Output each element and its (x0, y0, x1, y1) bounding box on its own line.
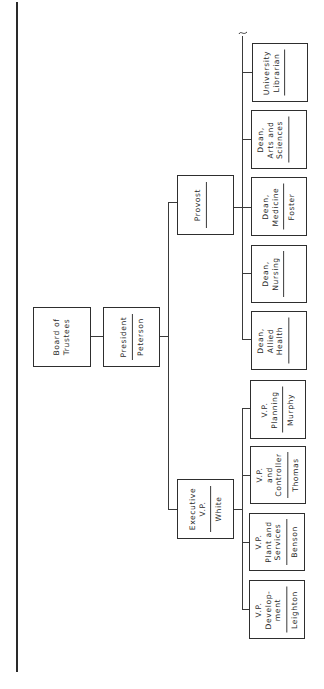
node-divider (210, 486, 211, 532)
continuation-break-icon (238, 29, 248, 37)
connector-librarian (242, 72, 252, 73)
page-margin-rule (16, 2, 18, 672)
node-divider (131, 314, 132, 360)
node-vp-development: V.P. Develop- ment Leighton (249, 580, 305, 639)
node-title: Dean, Allied Health (256, 326, 285, 355)
node-title: V.P. Develop- ment (254, 590, 283, 629)
connector-deans-spine (242, 36, 243, 339)
node-title: V.P. Planning (260, 391, 279, 429)
node-president: President Peterson (103, 307, 160, 367)
node-dean-medicine: Dean, Medicine Foster (251, 177, 307, 236)
node-vp-planning: V.P. Planning Murphy (250, 380, 306, 439)
node-title: University Librarian (262, 50, 281, 94)
connector-dean-arts (242, 139, 251, 140)
node-title: Dean, Arts and Sciences (256, 120, 285, 158)
connector-vps-spine (242, 408, 243, 610)
node-person: White (214, 496, 224, 521)
node-dean-nursing: Dean, Nursing (251, 245, 307, 303)
node-provost: Provost (177, 175, 234, 235)
node-divider (205, 182, 206, 228)
node-divider (282, 387, 283, 433)
connector-trunk (168, 202, 169, 510)
node-person: Foster (287, 193, 297, 220)
node-vp-controller: V.P. and Controller Thomas (250, 446, 306, 504)
node-person: Benson (290, 526, 300, 558)
node-title: V.P. and Controller (255, 453, 284, 496)
node-executive-vp: Executive V.P. White (177, 479, 234, 539)
node-title: V.P. Plant and Services (254, 521, 283, 562)
connector-vp-ctrl (242, 475, 250, 476)
connector-dean-nurs (242, 273, 251, 274)
node-title: Dean, Medicine (261, 187, 280, 226)
node-divider (286, 587, 287, 633)
node-dean-allied-health: Dean, Allied Health (251, 311, 307, 370)
node-person: Leighton (290, 591, 300, 629)
node-divider (288, 318, 289, 364)
node-title: Dean, Nursing (261, 257, 280, 291)
node-title: Provost (192, 189, 202, 221)
node-vp-plant-services: V.P. Plant and Services Benson (249, 513, 305, 571)
node-divider (284, 50, 285, 96)
connector-board-president (91, 336, 103, 337)
node-divider (288, 117, 289, 163)
connector-dean-allied (242, 339, 251, 340)
node-person: Peterson (135, 318, 145, 356)
connector-trunk-provost (168, 202, 177, 203)
node-board-of-trustees: Board of Trustees (33, 307, 91, 367)
node-divider (287, 452, 288, 498)
node-university-librarian: University Librarian (252, 43, 308, 102)
node-title: Executive V.P. (188, 488, 207, 530)
node-person: Murphy (286, 393, 296, 425)
connector-dean-med (242, 207, 251, 208)
node-title: President (118, 317, 128, 358)
node-divider (283, 184, 284, 230)
node-dean-arts-sciences: Dean, Arts and Sciences (251, 110, 307, 169)
node-divider (286, 519, 287, 565)
node-person: Thomas (291, 458, 301, 492)
node-divider (283, 251, 284, 297)
node-title: Board of Trustees (52, 319, 71, 356)
connector-trunk-execvp (168, 509, 177, 510)
